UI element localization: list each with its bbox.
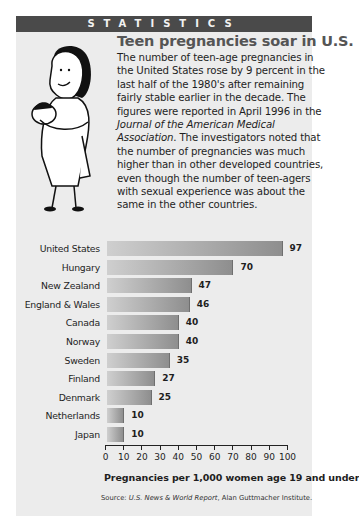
bar-label: England & Wales — [0, 297, 100, 312]
x-tick-label: 100 — [279, 452, 296, 462]
x-tick — [178, 445, 179, 450]
bar-row: Norway40 — [0, 334, 338, 349]
bar — [107, 408, 124, 423]
bar-value: 10 — [131, 427, 144, 442]
bar-label: Finland — [0, 371, 100, 386]
x-tick-label: 0 — [103, 452, 109, 462]
article-body: The number of teen-age pregnancies in th… — [117, 51, 331, 212]
bar-row: United States97 — [0, 241, 338, 256]
bar-label: Canada — [0, 315, 100, 330]
x-tick-label: 20 — [136, 452, 147, 462]
source-prefix: Source: — [101, 494, 129, 502]
x-tick — [105, 445, 106, 450]
bar — [107, 353, 170, 368]
bar-value: 46 — [197, 297, 210, 312]
bar-value: 27 — [162, 371, 175, 386]
bar-label: New Zealand — [0, 278, 100, 293]
x-tick — [141, 445, 142, 450]
x-tick-label: 60 — [209, 452, 220, 462]
bar-row: New Zealand47 — [0, 278, 338, 293]
headline: Teen pregnancies soar in U.S. — [117, 33, 317, 49]
bar-value: 25 — [159, 390, 172, 405]
x-tick-label: 30 — [154, 452, 165, 462]
bar-label: Hungary — [0, 260, 100, 275]
source-note: Source: U.S. News & World Report, Alan G… — [101, 494, 312, 502]
bar-value: 40 — [186, 315, 199, 330]
x-tick-label: 90 — [264, 452, 275, 462]
bar-row: Japan10 — [0, 427, 338, 442]
bar — [107, 334, 179, 349]
bar-label: Norway — [0, 334, 100, 349]
bar-label: Netherlands — [0, 408, 100, 423]
bar-label: Japan — [0, 427, 100, 442]
x-tick — [269, 445, 270, 450]
x-axis-title: Pregnancies per 1,000 women age 19 and u… — [104, 472, 359, 483]
body-text-2: . The investigators noted that the numbe… — [117, 132, 323, 210]
bar — [107, 260, 233, 275]
bar — [107, 390, 152, 405]
bar-row: Denmark25 — [0, 390, 338, 405]
x-tick — [251, 445, 252, 450]
bar — [107, 427, 124, 442]
mother-holding-baby-icon — [16, 36, 106, 216]
bar-value: 97 — [290, 241, 303, 256]
bar-label: Denmark — [0, 390, 100, 405]
bar-label: Sweden — [0, 353, 100, 368]
bar-value: 70 — [240, 260, 253, 275]
bar-row: Canada40 — [0, 315, 338, 330]
bar — [107, 297, 190, 312]
x-tick-label: 80 — [245, 452, 256, 462]
bar-value: 47 — [199, 278, 212, 293]
bar — [107, 371, 155, 386]
bar-row: Finland27 — [0, 371, 338, 386]
bar — [107, 278, 192, 293]
x-tick-label: 10 — [118, 452, 129, 462]
bar-value: 10 — [131, 408, 144, 423]
x-tick-label: 50 — [191, 452, 202, 462]
x-tick — [214, 445, 215, 450]
bar — [107, 315, 179, 330]
bar-row: Hungary70 — [0, 260, 338, 275]
bar-row: Netherlands10 — [0, 408, 338, 423]
x-tick — [196, 445, 197, 450]
source-publication: U.S. News & World Report — [129, 494, 218, 502]
bar — [107, 241, 283, 256]
bar-value: 35 — [177, 353, 190, 368]
bar-value: 40 — [186, 334, 199, 349]
bar-row: Sweden35 — [0, 353, 338, 368]
section-banner: STATISTICS — [16, 16, 312, 32]
x-tick — [160, 445, 161, 450]
x-tick-label: 40 — [173, 452, 184, 462]
body-text-1: The number of teen-age pregnancies in th… — [117, 52, 325, 117]
bar-row: England & Wales46 — [0, 297, 338, 312]
source-suffix: , Alan Guttmacher Institute. — [217, 494, 312, 502]
bar-label: United States — [0, 241, 100, 256]
x-tick-label: 70 — [227, 452, 238, 462]
x-tick — [123, 445, 124, 450]
x-tick — [232, 445, 233, 450]
x-tick — [287, 445, 288, 450]
